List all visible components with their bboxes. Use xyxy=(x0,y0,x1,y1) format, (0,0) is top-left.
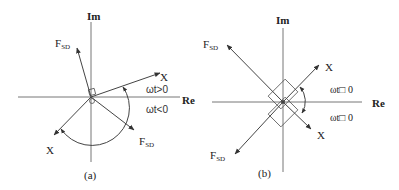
region-neg-label-b: ωt□ 0 xyxy=(330,112,353,123)
x-upper-label-a: X xyxy=(160,71,168,83)
panel-b: Im Re FSD X FSD X ωt□ 0 ωt□ 0 (b) xyxy=(203,14,385,180)
caption-b: (b) xyxy=(258,167,271,180)
fsd-upper-vector-b xyxy=(227,45,283,102)
x-upper-vector-b xyxy=(283,65,319,102)
im-label-a: Im xyxy=(87,10,100,22)
re-label-a: Re xyxy=(182,94,195,106)
caption-a: (a) xyxy=(84,169,97,182)
fsd-lower-vector-b xyxy=(235,102,283,154)
x-lower-vector-a xyxy=(54,97,91,135)
im-label-b: Im xyxy=(276,14,289,26)
region-neg-label-a: ωt<0 xyxy=(146,104,168,115)
phasor-diagram: Im Re FSD X X FSD ωt>0 ωt<0 (a) Im Re xyxy=(0,0,399,190)
fsd-lower-label-a: FSD xyxy=(139,135,154,149)
panel-a: Im Re FSD X X FSD ωt>0 ωt<0 (a) xyxy=(18,10,195,182)
re-label-b: Re xyxy=(372,97,385,109)
x-lower-label-a: X xyxy=(46,144,54,156)
fsd-lower-label-b: FSD xyxy=(210,149,225,163)
fsd-upper-label-a: FSD xyxy=(55,37,70,51)
x-lower-vector-b xyxy=(283,102,311,129)
rotation-arc-b xyxy=(300,87,305,113)
x-lower-label-b: X xyxy=(317,129,325,141)
fsd-upper-vector-a xyxy=(77,48,91,97)
fsd-upper-label-b: FSD xyxy=(203,38,218,52)
fsd-lower-vector-a xyxy=(91,97,134,130)
region-pos-label-a: ωt>0 xyxy=(146,84,168,95)
region-pos-label-b: ωt□ 0 xyxy=(330,84,353,95)
x-upper-label-b: X xyxy=(325,61,333,73)
